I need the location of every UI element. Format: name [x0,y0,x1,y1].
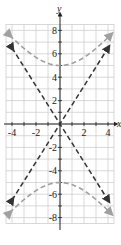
svg-text:4: 4 [52,72,57,83]
svg-text:y: y [56,3,62,14]
svg-text:4: 4 [106,127,111,138]
svg-text:-2: -2 [32,127,40,138]
tick-labels: xy-4-2248642-2-4-6-8 [8,3,121,223]
hyperbola-graph: xy-4-2248642-2-4-6-8 [0,0,121,245]
svg-text:-4: -4 [8,127,16,138]
svg-text:6: 6 [52,48,57,59]
svg-text:2: 2 [82,127,87,138]
svg-text:8: 8 [52,25,57,36]
svg-text:-8: -8 [49,212,57,223]
svg-text:-4: -4 [49,165,57,176]
svg-text:-2: -2 [49,142,57,153]
svg-text:-6: -6 [49,189,57,200]
svg-text:2: 2 [52,95,57,106]
svg-text:x: x [116,118,121,129]
